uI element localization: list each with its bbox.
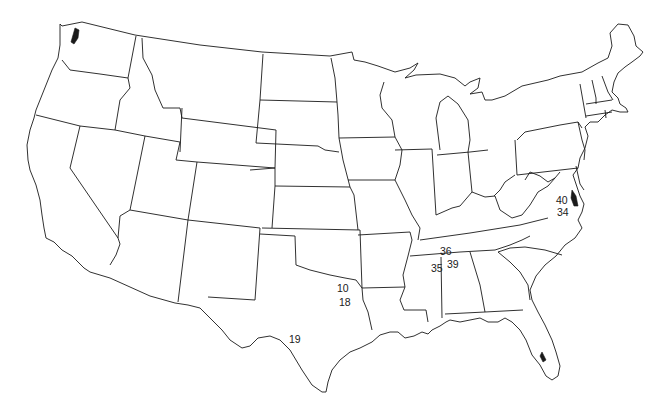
label-ky-36: 36 <box>440 245 452 257</box>
state-outlines <box>27 22 643 392</box>
label-tx-19: 19 <box>289 333 301 345</box>
us-states-map: 10 18 19 36 35 39 40 34 <box>0 0 665 412</box>
label-tn-35: 35 <box>431 262 443 274</box>
label-va-40: 40 <box>556 194 568 206</box>
label-tn-39: 39 <box>447 258 459 270</box>
label-tx-10: 10 <box>337 282 349 294</box>
label-tx-18: 18 <box>339 296 351 308</box>
label-va-34: 34 <box>557 206 569 218</box>
